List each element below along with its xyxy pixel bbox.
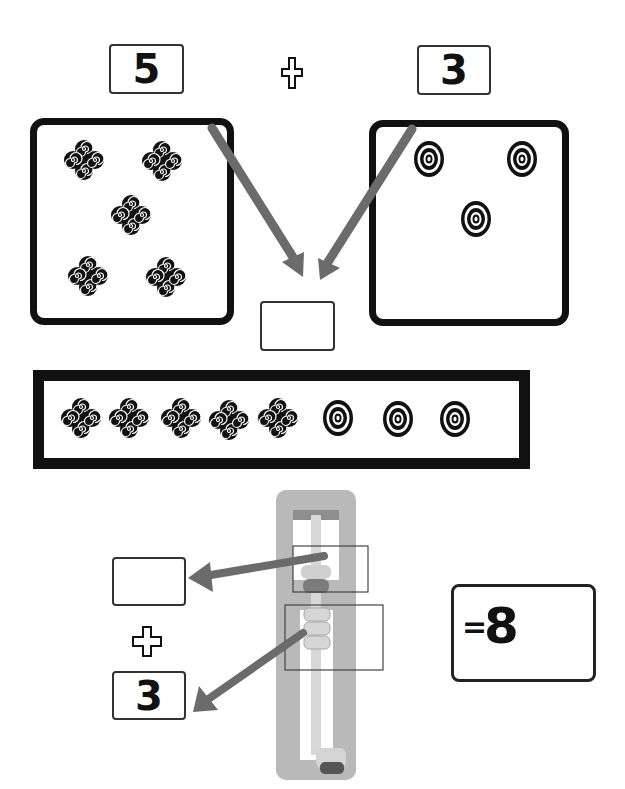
left-number-box: 5 <box>109 44 184 94</box>
right-number: 3 <box>440 50 468 90</box>
abacus-image <box>276 490 383 780</box>
sum-answer-box[interactable] <box>260 301 335 351</box>
abacus-bottom-number-box: 3 <box>112 671 186 720</box>
right-number-box: 3 <box>417 45 491 95</box>
left-number: 5 <box>133 49 161 89</box>
result-value: 8 <box>484 597 519 655</box>
abacus-top-answer-box[interactable] <box>112 557 186 606</box>
left-group-box <box>30 118 234 325</box>
plus-icon <box>132 626 162 657</box>
abacus-bottom-number: 3 <box>135 676 163 716</box>
worksheet-heading <box>0 0 625 6</box>
plus-icon <box>281 57 303 89</box>
arrow-abacus-bottom-to-box <box>193 633 303 712</box>
combined-items-strip <box>33 370 530 469</box>
right-group-box <box>369 120 569 326</box>
arrow-abacus-top-to-box <box>188 556 324 592</box>
result-box: = 8 <box>451 584 596 682</box>
